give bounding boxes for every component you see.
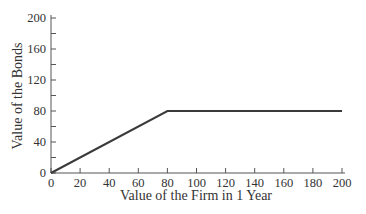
y-tick-label: 40	[34, 135, 47, 149]
bond-payoff-chart: 020406080100120140160180200 040801201602…	[0, 0, 366, 214]
x-tick-label: 160	[274, 176, 293, 190]
y-tick-label: 160	[27, 42, 46, 56]
y-tick-label: 0	[40, 166, 46, 180]
x-tick-label: 40	[103, 176, 116, 190]
x-axis-ticks: 020406080100120140160180200	[48, 168, 352, 190]
y-tick-label: 120	[27, 73, 46, 87]
x-tick-label: 180	[304, 176, 323, 190]
x-tick-label: 200	[333, 176, 352, 190]
y-tick-label: 80	[34, 104, 47, 118]
x-tick-label: 20	[74, 176, 87, 190]
y-axis-ticks: 04080120160200	[27, 11, 56, 180]
y-axis-title: Value of the Bonds	[10, 43, 25, 150]
bond-payoff-line	[51, 111, 342, 173]
data-series	[51, 111, 342, 173]
x-axis-title: Value of the Firm in 1 Year	[120, 188, 272, 203]
y-tick-label: 200	[27, 11, 46, 25]
x-tick-label: 0	[48, 176, 54, 190]
